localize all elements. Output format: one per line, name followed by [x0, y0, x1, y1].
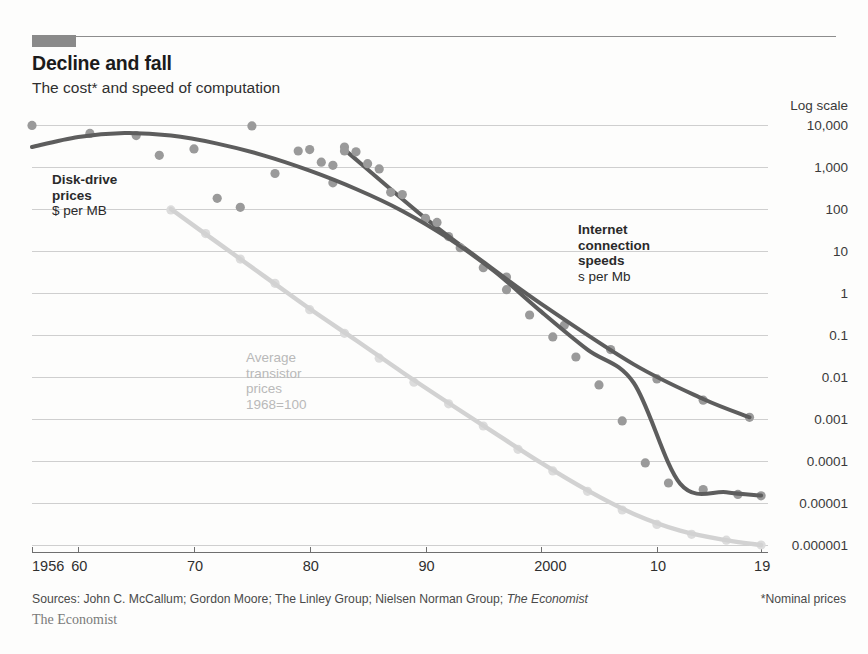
- y-axis-label: 0.0001: [807, 454, 848, 469]
- data-point: [317, 158, 326, 167]
- annotation-transistor-line3: prices: [246, 381, 306, 397]
- x-axis-label: 60: [71, 558, 87, 574]
- x-axis-label: 10: [650, 558, 666, 574]
- annotation-internet-line1: Internet: [578, 222, 650, 238]
- data-point: [664, 478, 673, 487]
- data-point: [571, 352, 580, 361]
- annotation-disk-drive: Disk-drive prices $ per MB: [52, 172, 117, 219]
- x-axis-label: 1956: [32, 558, 64, 574]
- x-axis-label: 70: [187, 558, 203, 574]
- x-axis-label: 19: [754, 558, 770, 574]
- y-axis-label: 0.01: [822, 370, 848, 385]
- annotation-internet-line2: connection: [578, 238, 650, 254]
- y-axis-label: 1,000: [814, 160, 848, 175]
- annotation-internet: Internet connection speeds s per Mb: [578, 222, 650, 284]
- data-point: [294, 146, 303, 155]
- sources-text: Sources: John C. McCallum; Gordon Moore;…: [32, 592, 507, 606]
- header-rule: [32, 36, 836, 37]
- data-point: [236, 203, 245, 212]
- data-point: [363, 159, 372, 168]
- y-axis-label: 0.00001: [799, 496, 848, 511]
- data-point: [351, 147, 360, 156]
- y-axis-label: 100: [825, 202, 848, 217]
- x-axis-label: 2000: [534, 558, 566, 574]
- brand-accent-tab: [32, 35, 76, 47]
- annotation-disk-drive-line2: prices: [52, 188, 117, 204]
- annotation-transistor: Average transistor prices 1968=100: [246, 350, 306, 412]
- series-disk-drive: [27, 121, 765, 501]
- data-point: [386, 188, 395, 197]
- plot-area: [32, 118, 768, 552]
- footnote: *Nominal prices: [761, 592, 846, 606]
- log-scale-label: Log scale: [790, 98, 848, 113]
- annotation-transistor-line4: 1968=100: [246, 397, 306, 413]
- data-point: [305, 145, 314, 154]
- y-axis-label: 10: [833, 244, 848, 259]
- series-internet: [340, 142, 754, 422]
- page-subtitle: The cost* and speed of computation: [32, 79, 280, 97]
- annotation-internet-line3: speeds: [578, 253, 650, 269]
- annotation-transistor-line1: Average: [246, 350, 306, 366]
- x-axis-label: 90: [419, 558, 435, 574]
- annotation-disk-drive-line1: Disk-drive: [52, 172, 117, 188]
- y-axis-label: 0.000001: [792, 538, 848, 553]
- annotation-transistor-line2: transistor: [246, 366, 306, 382]
- x-axis-label: 80: [303, 558, 319, 574]
- series-layer: [32, 118, 768, 552]
- data-point: [375, 164, 384, 173]
- page-title: Decline and fall: [32, 52, 172, 75]
- sources-line: Sources: John C. McCallum; Gordon Moore;…: [32, 592, 588, 606]
- y-axis-label: 0.1: [829, 328, 848, 343]
- trend-line: [345, 150, 750, 418]
- annotation-internet-unit: s per Mb: [578, 269, 650, 285]
- annotation-disk-drive-unit: $ per MB: [52, 203, 117, 219]
- y-axis-label: 0.001: [814, 412, 848, 427]
- data-point: [525, 310, 534, 319]
- data-point: [189, 144, 198, 153]
- y-axis-label: 10,000: [807, 118, 848, 133]
- data-point: [398, 190, 407, 199]
- data-point: [548, 332, 557, 341]
- brand-wordmark: The Economist: [32, 612, 117, 628]
- data-point: [213, 194, 222, 203]
- data-point: [340, 146, 349, 155]
- y-axis-label: 1: [840, 286, 848, 301]
- data-point: [618, 416, 627, 425]
- chart-page: Decline and fall The cost* and speed of …: [0, 0, 868, 654]
- data-point: [641, 458, 650, 467]
- data-point: [594, 380, 603, 389]
- data-point: [270, 169, 279, 178]
- data-point: [328, 161, 337, 170]
- data-point: [432, 218, 441, 227]
- trend-line: [32, 133, 761, 496]
- sources-publication: The Economist: [507, 592, 588, 606]
- data-point: [27, 121, 36, 130]
- data-point: [155, 151, 164, 160]
- data-point: [247, 121, 256, 130]
